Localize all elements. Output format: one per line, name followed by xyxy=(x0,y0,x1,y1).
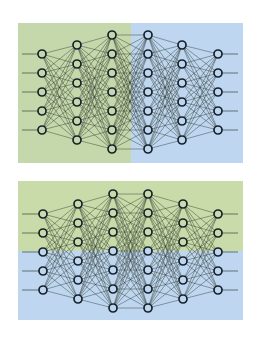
vertical-split-network xyxy=(18,23,243,163)
neuron-node xyxy=(214,88,222,96)
neuron-node xyxy=(73,79,81,87)
neuron-node xyxy=(108,88,116,96)
neuron-node xyxy=(179,219,187,227)
neuron-node xyxy=(144,304,152,312)
neuron-node xyxy=(74,295,82,303)
neuron-node xyxy=(144,126,152,134)
neuron-node xyxy=(39,210,47,218)
neuron-node xyxy=(144,285,152,293)
neuron-node xyxy=(109,285,117,293)
neuron-node xyxy=(144,228,152,236)
neuron-node xyxy=(178,79,186,87)
neuron-node xyxy=(108,31,116,39)
neuron-node xyxy=(109,247,117,255)
horizontal-split-network xyxy=(18,181,243,320)
neuron-node xyxy=(39,248,47,256)
neuron-node xyxy=(144,69,152,77)
neuron-node xyxy=(214,248,222,256)
neuron-node xyxy=(144,50,152,58)
neuron-node xyxy=(38,88,46,96)
neuron-node xyxy=(109,228,117,236)
neuron-node xyxy=(144,247,152,255)
neuron-node xyxy=(144,88,152,96)
neural-network-diagrams xyxy=(0,0,262,343)
neuron-node xyxy=(73,136,81,144)
neuron-node xyxy=(214,50,222,58)
neuron-node xyxy=(179,200,187,208)
neuron-node xyxy=(39,267,47,275)
neuron-node xyxy=(74,257,82,265)
neuron-node xyxy=(38,126,46,134)
neuron-node xyxy=(109,266,117,274)
neuron-node xyxy=(214,107,222,115)
neural-network-figure xyxy=(0,0,262,343)
neuron-node xyxy=(74,219,82,227)
neuron-node xyxy=(38,50,46,58)
neuron-node xyxy=(74,200,82,208)
neuron-node xyxy=(214,229,222,237)
neuron-node xyxy=(38,107,46,115)
neuron-node xyxy=(73,117,81,125)
neuron-node xyxy=(73,60,81,68)
neuron-node xyxy=(214,210,222,218)
neuron-node xyxy=(39,286,47,294)
neuron-node xyxy=(214,267,222,275)
neuron-node xyxy=(74,238,82,246)
neuron-node xyxy=(214,126,222,134)
neuron-node xyxy=(214,69,222,77)
neuron-node xyxy=(144,145,152,153)
neuron-node xyxy=(108,107,116,115)
neuron-node xyxy=(214,286,222,294)
neuron-node xyxy=(74,276,82,284)
neuron-node xyxy=(179,238,187,246)
neuron-node xyxy=(73,41,81,49)
neuron-node xyxy=(109,209,117,217)
neuron-node xyxy=(108,126,116,134)
neuron-node xyxy=(144,190,152,198)
neuron-node xyxy=(38,69,46,77)
neuron-node xyxy=(179,295,187,303)
neuron-node xyxy=(109,190,117,198)
neuron-node xyxy=(108,69,116,77)
neuron-node xyxy=(108,50,116,58)
neuron-node xyxy=(144,107,152,115)
neuron-node xyxy=(179,276,187,284)
neuron-node xyxy=(178,41,186,49)
neuron-node xyxy=(178,98,186,106)
neuron-node xyxy=(39,229,47,237)
neuron-node xyxy=(179,257,187,265)
neuron-node xyxy=(144,31,152,39)
neuron-node xyxy=(73,98,81,106)
neuron-node xyxy=(178,60,186,68)
neuron-node xyxy=(144,266,152,274)
neuron-node xyxy=(178,117,186,125)
neuron-node xyxy=(108,145,116,153)
neuron-node xyxy=(144,209,152,217)
neuron-node xyxy=(178,136,186,144)
neuron-node xyxy=(109,304,117,312)
